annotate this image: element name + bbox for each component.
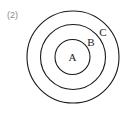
circles-svg: A B C	[0, 0, 133, 113]
part-label: (2)	[7, 10, 18, 20]
label-c: C	[99, 26, 106, 38]
label-b: B	[87, 36, 94, 48]
label-a: A	[69, 51, 77, 63]
concentric-circles-diagram: (2) A B C	[0, 0, 133, 113]
